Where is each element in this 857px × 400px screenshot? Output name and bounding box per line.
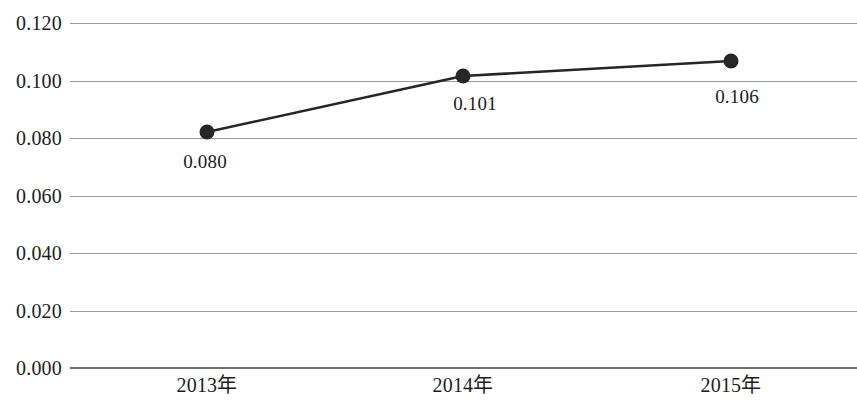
x-tick-label: 2015年 [701, 375, 762, 395]
line-chart: 0.120 0.100 0.080 0.060 0.040 0.020 0.00… [0, 0, 857, 400]
x-tick-label: 2013年 [177, 375, 238, 395]
x-axis: 2013年 2014年 2015年 [0, 0, 857, 400]
x-tick-label: 2014年 [433, 375, 494, 395]
